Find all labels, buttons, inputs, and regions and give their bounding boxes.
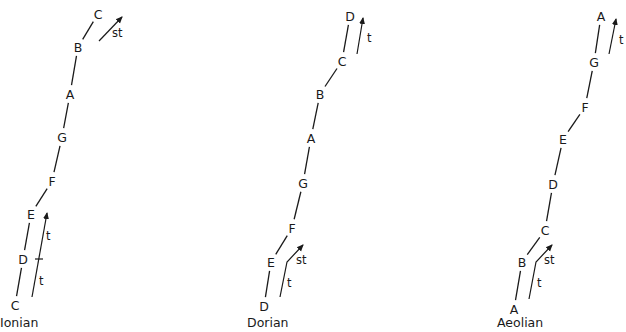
note-a: A <box>597 9 606 24</box>
note-a: A <box>66 87 75 102</box>
note-e: E <box>559 132 567 147</box>
semitone-label: st <box>296 253 307 267</box>
tone-label: t <box>46 229 51 243</box>
note-d: D <box>548 177 558 192</box>
mode-dorian: DEFGABCDtsttDorian <box>247 9 372 331</box>
scale-step-line <box>313 103 318 129</box>
scale-step-line <box>527 237 539 254</box>
mode-name-aeolian: Aeolian <box>497 315 543 330</box>
note-b: B <box>74 40 83 55</box>
note-b: B <box>518 255 527 270</box>
semitone-label: st <box>112 26 123 40</box>
scale-step-line <box>72 56 77 85</box>
scale-step-line <box>64 103 69 128</box>
note-a: A <box>307 131 316 146</box>
note-g: G <box>57 130 67 145</box>
note-c: C <box>94 7 103 22</box>
scale-step-line <box>54 146 60 172</box>
scale-step-line <box>17 268 22 296</box>
note-g: G <box>589 55 599 70</box>
note-f: F <box>48 174 55 189</box>
scale-step-line <box>344 25 349 52</box>
scale-step-line <box>595 25 599 53</box>
tone-label: t <box>287 276 292 290</box>
note-b: B <box>316 87 325 102</box>
scale-step-line <box>547 193 552 221</box>
scale-step-line <box>294 192 301 220</box>
semitone-label: st <box>544 253 555 267</box>
note-c: C <box>11 298 20 313</box>
note-e: E <box>267 255 275 270</box>
scale-step-line <box>568 114 580 131</box>
note-g: G <box>298 176 308 191</box>
tone-label: t <box>537 276 542 290</box>
scale-step-line <box>83 22 94 40</box>
scale-step-line <box>516 271 521 300</box>
tone-label: t <box>619 33 624 47</box>
mode-aeolian: ABCDEFGAtsttAeolian <box>497 9 624 331</box>
mode-ionian: CDEFGABCttstIonian <box>0 7 123 331</box>
mode-name-dorian: Dorian <box>247 315 288 330</box>
note-d: D <box>345 9 355 24</box>
scale-step-line <box>325 68 337 86</box>
interval-arrow-icon <box>357 18 363 54</box>
note-f: F <box>581 100 588 115</box>
scale-step-line <box>25 223 30 250</box>
interval-arrow-icon <box>609 19 616 54</box>
scale-step-line <box>265 271 269 297</box>
tone-label: t <box>39 274 44 288</box>
modal-scales-diagram: CDEFGABCttstIonian DEFGABCDtsttDorian AB… <box>0 0 626 332</box>
scale-step-line <box>276 236 288 255</box>
note-d: D <box>18 252 28 267</box>
scale-step-line <box>555 148 561 175</box>
scale-step-line <box>305 147 310 174</box>
note-e: E <box>27 207 35 222</box>
tone-label: t <box>367 31 372 45</box>
scale-step-line <box>36 189 47 207</box>
note-d: D <box>259 299 269 314</box>
note-f: F <box>288 221 295 236</box>
mode-name-ionian: Ionian <box>0 315 38 330</box>
scale-step-line <box>587 71 592 98</box>
note-c: C <box>541 223 550 238</box>
note-c: C <box>338 54 347 69</box>
